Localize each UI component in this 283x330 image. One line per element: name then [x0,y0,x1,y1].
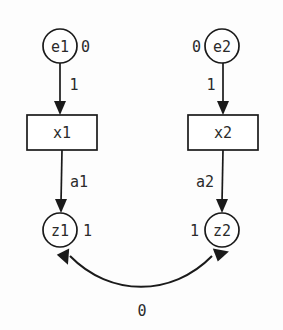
arrowhead-icon-x1-z1 [55,199,67,213]
node-annotation-e2: 0 [192,38,201,56]
edge-line-x2-z2 [222,150,223,203]
edge-label-x1-z1: a1 [70,173,88,191]
node-x1[interactable]: x1 [27,115,97,150]
node-e2[interactable]: e2 0 [192,29,239,63]
node-annotation-z2: 1 [190,222,199,240]
arrowhead-icon-x2-z2 [216,199,228,213]
node-e1[interactable]: e1 0 [43,29,90,63]
node-label-z2: z2 [213,222,231,240]
edge-line-x1-z1 [61,150,62,203]
node-label-x1: x1 [53,124,71,142]
edge-label-z1-z2: 0 [137,302,146,320]
node-label-e2: e2 [213,38,231,56]
edge-x1-z1[interactable]: a1 [55,150,88,213]
node-x2[interactable]: x2 [188,115,258,150]
diagram-canvas: 1 1 a1 a2 0 e1 [0,0,283,330]
edge-e2-x2[interactable]: 1 [206,63,229,115]
arrowhead-icon-e1-x1 [54,101,66,115]
arrowhead-icon-e2-x2 [217,101,229,115]
node-z1[interactable]: z1 1 [43,213,92,247]
node-label-x2: x2 [214,124,232,142]
node-annotation-e1: 0 [81,38,90,56]
node-label-z1: z1 [51,222,69,240]
node-z2[interactable]: z2 1 [190,213,239,247]
edge-curve-z1-z2 [70,256,212,287]
graph-svg: 1 1 a1 a2 0 e1 [0,0,283,330]
arrowhead-icon-z1-end [57,245,77,265]
node-label-e1: e1 [51,38,69,56]
edge-e1-x1[interactable]: 1 [54,63,79,115]
edge-label-e1-x1: 1 [69,76,78,94]
edge-z1-z2[interactable]: 0 [57,242,229,320]
edge-label-x2-z2: a2 [196,173,214,191]
edge-x2-z2[interactable]: a2 [196,150,228,213]
edge-label-e2-x2: 1 [206,76,215,94]
node-annotation-z1: 1 [83,222,92,240]
